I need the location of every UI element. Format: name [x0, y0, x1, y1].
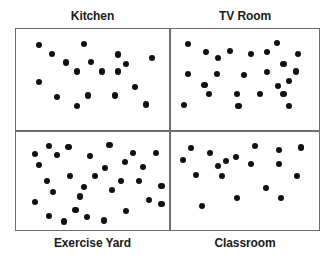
data-point: [158, 201, 164, 207]
data-point: [87, 153, 93, 159]
data-point: [153, 150, 159, 156]
data-point: [201, 82, 207, 88]
data-point: [123, 61, 129, 67]
data-point: [286, 78, 292, 84]
data-point: [72, 207, 78, 213]
panel-grid-frame: [15, 28, 320, 231]
data-point: [276, 161, 282, 167]
data-point: [298, 144, 304, 150]
scatter-panel-tv-room: [170, 29, 318, 130]
data-point: [101, 217, 107, 223]
data-point: [112, 92, 118, 98]
data-point: [50, 189, 56, 195]
data-point: [99, 68, 105, 74]
data-point: [77, 193, 83, 199]
data-point: [81, 184, 87, 190]
data-point: [248, 161, 254, 167]
data-point: [36, 42, 42, 48]
data-point: [122, 159, 128, 165]
data-point: [92, 173, 98, 179]
data-point: [286, 103, 292, 109]
data-point: [74, 103, 80, 109]
data-point: [32, 151, 38, 157]
scatter-panel-kitchen: [16, 29, 169, 130]
data-point: [185, 41, 191, 47]
data-point: [46, 143, 52, 149]
data-point: [193, 172, 199, 178]
scatter-panel-exercise-yard: [16, 132, 169, 230]
data-point: [219, 173, 225, 179]
data-point: [274, 40, 280, 46]
data-point: [199, 203, 205, 209]
data-point: [295, 51, 301, 57]
data-point: [36, 162, 42, 168]
data-point: [118, 178, 124, 184]
data-point: [278, 195, 284, 201]
data-point: [234, 91, 240, 97]
data-point: [132, 84, 138, 90]
data-point: [115, 68, 121, 74]
data-point: [123, 208, 129, 214]
data-point: [241, 72, 247, 78]
panel-label-classroom: Classroom: [170, 236, 320, 250]
data-point: [149, 55, 155, 61]
data-point: [102, 165, 108, 171]
data-point: [280, 61, 286, 67]
data-point: [207, 150, 213, 156]
data-point: [84, 214, 90, 220]
data-point: [32, 199, 38, 205]
data-point: [49, 51, 55, 57]
data-point: [109, 187, 115, 193]
data-point: [252, 143, 258, 149]
data-point: [181, 102, 187, 108]
panel-label-exercise-yard: Exercise Yard: [15, 236, 170, 250]
panel-label-kitchen: Kitchen: [15, 9, 170, 23]
data-point: [275, 83, 281, 89]
data-point: [65, 144, 71, 150]
data-point: [140, 164, 146, 170]
data-point: [264, 49, 270, 55]
data-point: [188, 145, 194, 151]
data-point: [263, 185, 269, 191]
data-point: [235, 103, 241, 109]
data-point: [206, 91, 212, 97]
data-point: [293, 68, 299, 74]
data-point: [227, 48, 233, 54]
data-point: [85, 92, 91, 98]
data-point: [233, 154, 239, 160]
data-point: [61, 218, 67, 224]
data-point: [223, 158, 229, 164]
data-point: [88, 59, 94, 65]
data-point: [180, 157, 186, 163]
data-point: [46, 213, 52, 219]
data-point: [136, 178, 142, 184]
data-point: [63, 59, 69, 65]
data-point: [280, 91, 286, 97]
data-point: [54, 152, 60, 158]
four-panel-figure: Kitchen TV Room Exercise Yard Classroom: [0, 0, 334, 263]
data-point: [276, 147, 282, 153]
data-point: [81, 41, 87, 47]
data-point: [214, 71, 220, 77]
data-point: [36, 79, 42, 85]
data-point: [234, 195, 240, 201]
data-point: [106, 142, 112, 148]
data-point: [74, 68, 80, 74]
data-point: [257, 91, 263, 97]
data-point: [203, 49, 209, 55]
data-point: [215, 163, 221, 169]
data-point: [185, 71, 191, 77]
data-point: [143, 101, 149, 107]
data-point: [158, 183, 164, 189]
data-point: [294, 173, 300, 179]
data-point: [67, 173, 73, 179]
data-point: [264, 69, 270, 75]
panel-label-tv-room: TV Room: [170, 9, 320, 23]
data-point: [215, 55, 221, 61]
data-point: [54, 94, 60, 100]
scatter-panel-classroom: [170, 132, 318, 230]
data-point: [146, 197, 152, 203]
data-point: [248, 51, 254, 57]
data-point: [44, 178, 50, 184]
data-point: [115, 51, 121, 57]
